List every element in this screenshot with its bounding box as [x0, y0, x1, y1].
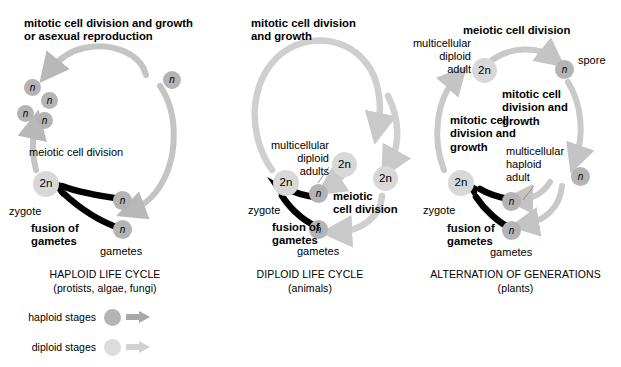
zygote-cell: 2n: [273, 170, 299, 196]
diploid-stage-dot-icon: [104, 339, 121, 356]
label-gametes: gametes: [100, 245, 142, 258]
haploid-cell-cluster-1: n: [24, 79, 41, 96]
cell-label: 2n: [455, 177, 468, 189]
cell-label: n: [578, 172, 584, 182]
label-mitotic-growth-asexual: mitotic cell division and growth or asex…: [24, 17, 193, 44]
caption-diploid-title: DIPLOID LIFE CYCLE: [210, 268, 410, 282]
panel-diploid-life-cycle: mitotic cell division and growth multice…: [210, 0, 410, 300]
legend-label-diploid: diploid stages: [0, 341, 104, 353]
cell-label: n: [509, 226, 515, 236]
cell-label: n: [42, 116, 48, 126]
label-multicellular-haploid-adult: multicellular haploid adult: [506, 145, 564, 184]
label-fusion-of-gametes: fusion of gametes: [272, 221, 320, 248]
haploid-adult-cell: n: [571, 167, 590, 186]
cell-label: 2n: [379, 173, 392, 185]
cell-label: n: [169, 75, 175, 85]
haploid-stage-dot-icon: [104, 309, 121, 326]
label-gametes: gametes: [490, 246, 532, 259]
label-meiotic-cell-division: meiotic cell division: [29, 146, 123, 159]
caption-alternation-sub: (plants): [410, 282, 621, 296]
legend: haploid stages diploid stages: [0, 306, 210, 366]
arrow-mitotic-growth: [50, 46, 146, 75]
cell-label: n: [47, 96, 53, 106]
cell-label: n: [30, 83, 36, 93]
arrow-to-gametes: [132, 86, 174, 210]
cell-label: 2n: [338, 159, 351, 171]
label-fusion-of-gametes: fusion of gametes: [31, 222, 79, 249]
haploid-cell-cluster-2: n: [41, 92, 58, 109]
caption-diploid-sub: (animals): [210, 282, 410, 296]
cell-label: n: [23, 109, 29, 119]
arrow-to-outer-adult: [388, 96, 397, 163]
cell-label: 2n: [478, 65, 491, 77]
label-zygote: zygote: [9, 205, 41, 218]
haploid-cell-top-right: n: [163, 71, 181, 89]
gamete-cell-lower: n: [113, 220, 132, 239]
legend-row-haploid: haploid stages: [0, 306, 152, 328]
cell-label: 2n: [280, 177, 293, 189]
cell-label: 2n: [40, 178, 53, 190]
legend-label-haploid: haploid stages: [0, 311, 104, 323]
cell-label: n: [120, 225, 126, 235]
gamete-cell-upper: n: [502, 192, 521, 211]
label-spore: spore: [578, 54, 606, 67]
label-mitotic-growth: mitotic cell division and growth: [251, 17, 356, 44]
cell-label: n: [509, 197, 515, 207]
panel-haploid-life-cycle: mitotic cell division and growth or asex…: [0, 0, 210, 300]
label-meiotic-cell-division: meiotic cell division: [333, 190, 398, 217]
diploid-adult-cell: 2n: [472, 58, 497, 83]
cell-label: n: [562, 65, 568, 75]
haploid-stage-arrow-icon: [126, 310, 152, 324]
caption-haploid-title: HAPLOID LIFE CYCLE: [0, 268, 210, 282]
haploid-cell-cluster-3: n: [17, 105, 34, 122]
caption-haploid-sub: (protists, algae, fungi): [0, 282, 210, 296]
cell-label: n: [316, 189, 322, 199]
label-gametes: gametes: [297, 245, 339, 258]
panel-alternation-of-generations: meiotic cell division multicellular dipl…: [410, 0, 621, 300]
gamete-cell-upper: n: [113, 191, 132, 210]
adult-cell-outer: 2n: [373, 166, 398, 191]
meiosis-product-cell: n: [309, 184, 328, 203]
adult-cell-inner: 2n: [332, 152, 357, 177]
label-zygote: zygote: [248, 204, 280, 217]
arrow-meiotic-division: [492, 49, 552, 60]
haploid-cell-cluster-4: n: [36, 112, 53, 129]
label-meiotic-cell-division-top: meiotic cell division: [463, 24, 570, 37]
label-fusion-of-gametes: fusion of gametes: [447, 222, 495, 249]
label-multicellular-diploid-adult: multicellular diploid adult: [405, 37, 471, 76]
diploid-stage-arrow-icon: [126, 340, 152, 354]
zygote-cell: 2n: [448, 170, 474, 196]
spore-cell: n: [555, 60, 574, 79]
arrow-mitotic-growth-right: [568, 82, 581, 158]
gamete-cell-lower: n: [502, 221, 521, 240]
legend-row-diploid: diploid stages: [0, 336, 152, 358]
zygote-cell: 2n: [33, 171, 59, 197]
cell-label: n: [120, 196, 126, 206]
caption-alternation-title: ALTERNATION OF GENERATIONS: [410, 268, 621, 282]
label-zygote: zygote: [423, 204, 455, 217]
arrow-to-gamete-upper: [520, 182, 550, 199]
